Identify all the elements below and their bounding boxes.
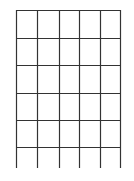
horizontal-grid-lines bbox=[16, 11, 120, 148]
vertical-grid-lines bbox=[17, 10, 121, 168]
grid-diagram bbox=[0, 0, 134, 181]
